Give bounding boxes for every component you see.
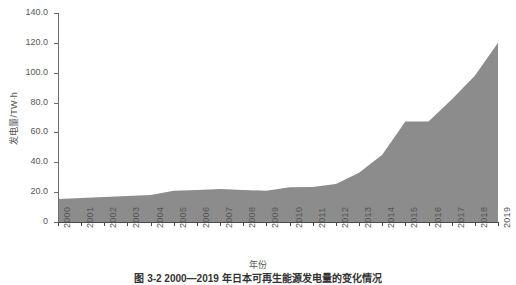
x-tick xyxy=(127,222,128,226)
x-tick-label: 2005 xyxy=(178,207,188,228)
x-tick xyxy=(475,222,476,226)
x-tick xyxy=(313,222,314,226)
x-tick xyxy=(58,222,59,226)
x-tick-label: 2012 xyxy=(340,207,350,228)
x-tick xyxy=(405,222,406,226)
y-tick-label: 40.0 xyxy=(30,156,48,166)
x-tick-label: 2004 xyxy=(155,207,165,228)
x-tick xyxy=(498,222,499,226)
plot-area: 140.0120.0100.080.060.040.020.00 2000200… xyxy=(58,13,498,222)
y-tick-label: 20.0 xyxy=(30,186,48,196)
y-axis-title: 发电量/TW·h xyxy=(7,64,20,174)
figure-caption: 图 3-2 2000—2019 年日本可再生能源发电量的变化情况 xyxy=(0,270,516,285)
y-tick: 80.0 xyxy=(54,103,58,104)
x-tick xyxy=(429,222,430,226)
x-tick-label: 2013 xyxy=(363,207,373,228)
y-tick-label: 60.0 xyxy=(30,126,48,136)
y-tick: 100.0 xyxy=(54,73,58,74)
x-tick xyxy=(452,222,453,226)
x-tick-label: 2010 xyxy=(294,207,304,228)
x-tick-label: 2003 xyxy=(131,207,141,228)
x-tick-label: 2015 xyxy=(409,207,419,228)
x-tick xyxy=(382,222,383,226)
x-tick xyxy=(359,222,360,226)
y-tick: 60.0 xyxy=(54,132,58,133)
y-tick: 40.0 xyxy=(54,162,58,163)
x-tick-label: 2002 xyxy=(108,207,118,228)
x-tick xyxy=(81,222,82,226)
y-tick-label: 0 xyxy=(43,216,48,226)
x-tick-label: 2000 xyxy=(62,207,72,228)
x-tick-label: 2009 xyxy=(270,207,280,228)
x-tick xyxy=(266,222,267,226)
x-tick-label: 2008 xyxy=(247,207,257,228)
y-tick: 20.0 xyxy=(54,192,58,193)
x-tick-label: 2016 xyxy=(433,207,443,228)
x-tick-label: 2011 xyxy=(317,207,327,228)
x-tick-label: 2007 xyxy=(224,207,234,228)
area-series xyxy=(58,13,499,223)
x-tick xyxy=(336,222,337,226)
y-tick-label: 100.0 xyxy=(25,67,48,77)
x-tick xyxy=(243,222,244,226)
x-tick-label: 2019 xyxy=(502,207,512,228)
x-tick-label: 2006 xyxy=(201,207,211,228)
x-tick xyxy=(151,222,152,226)
x-tick-label: 2001 xyxy=(85,207,95,228)
y-tick: 140.0 xyxy=(54,13,58,14)
x-tick xyxy=(197,222,198,226)
y-tick-label: 80.0 xyxy=(30,97,48,107)
x-tick xyxy=(290,222,291,226)
y-axis-line xyxy=(58,13,59,222)
y-tick-label: 140.0 xyxy=(25,7,48,17)
x-tick xyxy=(220,222,221,226)
x-tick-label: 2018 xyxy=(479,207,489,228)
x-tick-label: 2017 xyxy=(456,207,466,228)
x-tick-label: 2014 xyxy=(386,207,396,228)
y-tick: 120.0 xyxy=(54,43,58,44)
x-tick xyxy=(104,222,105,226)
y-tick-label: 120.0 xyxy=(25,37,48,47)
x-tick xyxy=(174,222,175,226)
